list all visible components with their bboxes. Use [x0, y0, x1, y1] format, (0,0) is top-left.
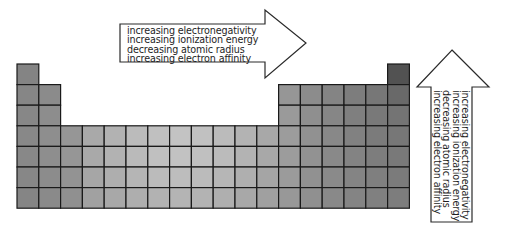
element-cell: [148, 188, 170, 209]
element-cell: [235, 126, 257, 147]
element-cell: [61, 188, 83, 209]
element-cell: [366, 85, 388, 106]
element-cell: [257, 146, 279, 167]
element-cell: [148, 146, 170, 167]
element-cell: [257, 126, 279, 147]
h-trend-electron-affinity: increasing electron affinity: [127, 54, 258, 63]
element-cell: [39, 167, 61, 188]
element-cell: [388, 64, 410, 85]
element-cell: [148, 126, 170, 147]
element-cell: [39, 105, 61, 126]
element-cell: [279, 146, 301, 167]
v-trend-ionization-energy: increasing ionization energy: [451, 90, 460, 221]
element-cell: [366, 126, 388, 147]
element-cell: [388, 146, 410, 167]
element-cell: [17, 105, 39, 126]
element-cell: [322, 167, 344, 188]
element-cell: [17, 188, 39, 209]
element-cell: [104, 188, 126, 209]
element-cell: [126, 167, 148, 188]
element-cell: [366, 167, 388, 188]
vertical-arrow-label: increasing electronegativity increasing …: [432, 90, 470, 221]
periodic-table-grid: [17, 64, 409, 208]
element-cell: [279, 126, 301, 147]
element-cell: [300, 126, 322, 147]
v-trend-electron-affinity: increasing electron affinity: [432, 90, 441, 221]
element-cell: [17, 64, 39, 85]
element-cell: [213, 188, 235, 209]
element-cell: [191, 188, 213, 209]
element-cell: [235, 188, 257, 209]
element-cell: [82, 146, 104, 167]
element-cell: [39, 188, 61, 209]
element-cell: [61, 167, 83, 188]
element-cell: [322, 105, 344, 126]
element-cell: [17, 126, 39, 147]
element-cell: [126, 126, 148, 147]
element-cell: [344, 85, 366, 106]
element-cell: [191, 126, 213, 147]
element-cell: [104, 126, 126, 147]
element-cell: [322, 146, 344, 167]
element-cell: [104, 167, 126, 188]
element-cell: [366, 188, 388, 209]
element-cell: [148, 167, 170, 188]
element-cell: [257, 188, 279, 209]
element-cell: [213, 146, 235, 167]
element-cell: [126, 146, 148, 167]
element-cell: [213, 167, 235, 188]
element-cell: [104, 146, 126, 167]
element-cell: [61, 146, 83, 167]
element-cell: [388, 105, 410, 126]
element-cell: [257, 167, 279, 188]
element-cell: [39, 126, 61, 147]
element-cell: [300, 105, 322, 126]
element-cell: [388, 167, 410, 188]
element-cell: [300, 146, 322, 167]
element-cell: [191, 146, 213, 167]
element-cell: [279, 85, 301, 106]
element-cell: [344, 126, 366, 147]
element-cell: [82, 126, 104, 147]
element-cell: [366, 105, 388, 126]
element-cell: [82, 167, 104, 188]
element-cell: [235, 146, 257, 167]
element-cell: [39, 146, 61, 167]
element-cell: [300, 167, 322, 188]
element-cell: [17, 146, 39, 167]
element-cell: [82, 188, 104, 209]
element-cell: [39, 85, 61, 106]
element-cell: [344, 146, 366, 167]
horizontal-arrow-label: increasing electronegativity increasing …: [127, 26, 258, 64]
element-cell: [170, 188, 192, 209]
element-cell: [322, 85, 344, 106]
element-cell: [126, 188, 148, 209]
element-cell: [17, 167, 39, 188]
element-cell: [366, 146, 388, 167]
element-cell: [17, 85, 39, 106]
element-cell: [170, 167, 192, 188]
element-cell: [388, 85, 410, 106]
element-cell: [170, 146, 192, 167]
element-cell: [279, 167, 301, 188]
element-cell: [170, 126, 192, 147]
element-cell: [235, 167, 257, 188]
element-cell: [322, 126, 344, 147]
element-cell: [344, 105, 366, 126]
element-cell: [191, 167, 213, 188]
element-cell: [213, 126, 235, 147]
element-cell: [344, 167, 366, 188]
element-cell: [279, 188, 301, 209]
element-cell: [322, 188, 344, 209]
element-cell: [344, 188, 366, 209]
element-cell: [300, 188, 322, 209]
v-trend-electronegativity: increasing electronegativity: [461, 90, 470, 221]
element-cell: [279, 105, 301, 126]
element-cell: [388, 126, 410, 147]
element-cell: [61, 126, 83, 147]
v-trend-atomic-radius: decreasing atomic radius: [442, 90, 451, 221]
element-cell: [388, 188, 410, 209]
element-cell: [300, 85, 322, 106]
